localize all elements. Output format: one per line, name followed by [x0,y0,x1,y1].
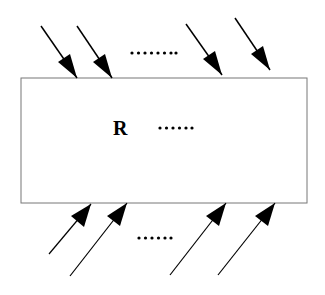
bottom-ellipsis-dots [137,236,172,239]
region-label: R [113,117,127,140]
region-rectangle [21,78,307,203]
bottom-arrows [49,203,275,276]
diagram-svg [0,0,325,295]
region-ellipsis-dots [158,126,193,129]
top-ellipsis-dots [130,51,177,54]
diagram-canvas: R [0,0,325,295]
top-arrows [41,18,270,78]
